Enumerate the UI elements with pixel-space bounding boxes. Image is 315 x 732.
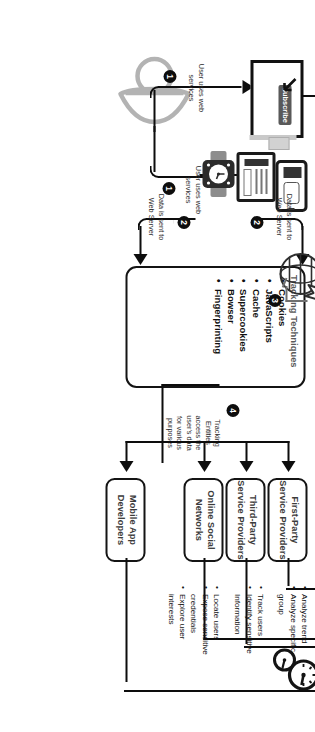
step-badge-2-left: 2 <box>250 216 263 229</box>
entity-label: First-PartyService Providers <box>275 480 299 559</box>
step-badge-4: 4 <box>226 404 239 417</box>
purpose-item-cont: interests <box>164 586 175 676</box>
entity-box-third-party[interactable]: Third-PartyService Providers <box>225 478 265 562</box>
purposes-social-mobile: Locate users Expose sensitive credential… <box>164 586 221 676</box>
diagram-canvas: 1 User uses webservices 1 User uses webs… <box>0 0 315 732</box>
caption-user-uses-left: User uses webservices <box>185 58 205 118</box>
dashboard-gauges-icon <box>269 648 315 694</box>
step-badge-2-right: 2 <box>177 216 190 229</box>
entity-label: Online SocialNetworks <box>191 490 215 550</box>
caption-data-sent-right: Data is sent toWeb Server <box>145 188 165 246</box>
tablet-icon <box>236 152 275 202</box>
desktop-monitor-icon: Subscribe <box>250 60 303 138</box>
step-badge-1-left: 1 <box>163 70 176 83</box>
purpose-item: Expose sensitive <box>198 586 209 676</box>
purpose-item: Track users <box>254 586 265 672</box>
purpose-item-cont: Information <box>231 586 242 672</box>
purpose-item-cont: credentials <box>187 586 198 676</box>
diagram-stage: 1 User uses webservices 1 User uses webs… <box>0 0 315 732</box>
entity-box-online-social-networks[interactable]: Online SocialNetworks <box>183 478 223 562</box>
tracking-item: Bowser <box>223 289 236 354</box>
cursor-pointer-icon <box>280 77 296 93</box>
step-badge-3: 3 <box>268 294 281 307</box>
entity-label: Third-PartyService Providers <box>233 480 257 559</box>
tracking-item: Fingerprinting <box>210 289 223 354</box>
purpose-item: Identify sensitive <box>242 586 253 672</box>
purposes-third-party: Track users Identify sensitive Informati… <box>231 586 265 672</box>
entity-box-first-party[interactable]: First-PartyService Providers <box>267 478 307 562</box>
tracking-item: Cache <box>248 289 261 354</box>
purpose-item: Locate users <box>210 586 221 676</box>
purpose-item: Explore user <box>176 586 187 676</box>
caption-data-sent-left: Data is sent toWeb Server <box>273 188 293 246</box>
tracking-item: Supercookies <box>236 289 249 354</box>
entity-label: Mobile AppDevelopers <box>113 495 137 546</box>
caption-tracking-entities: TrackingEntitiesaccess theuser's datafor… <box>164 398 221 468</box>
entity-box-mobile-app-developers[interactable]: Mobile AppDevelopers <box>105 478 145 562</box>
smartwatch-icon <box>199 150 237 198</box>
